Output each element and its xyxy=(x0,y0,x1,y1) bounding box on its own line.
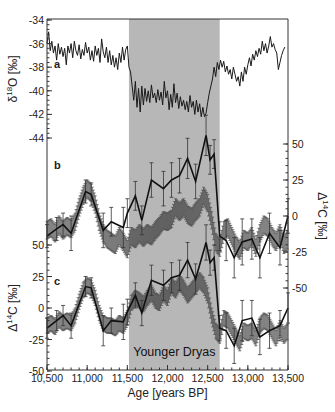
panel-label-b: b xyxy=(54,159,61,171)
chart-figure: Age [years BP] Younger Dryas 10,50011,00… xyxy=(0,0,335,412)
y-tick-label-b: 25 xyxy=(292,174,304,186)
y-tick-label-a: -44 xyxy=(29,132,44,144)
y-tick-label-c: -25 xyxy=(29,334,44,346)
x-tick-label: 11,000 xyxy=(71,372,102,384)
panel-label-c: c xyxy=(54,275,60,287)
x-axis-title: Age [years BP] xyxy=(127,386,207,400)
x-tick-label: 13,500 xyxy=(272,372,304,384)
y-tick-label-c: 25 xyxy=(32,271,44,283)
x-tick-label: 12,500 xyxy=(192,372,224,384)
y-tick-label-b: 50 xyxy=(292,138,304,150)
x-tick-label: 12,000 xyxy=(151,372,183,384)
y-tick-label-a: -36 xyxy=(29,38,44,50)
y-tick-label-b: -50 xyxy=(292,282,307,294)
y-tick-label-c: 0 xyxy=(38,302,44,314)
y-tick-label-a: -42 xyxy=(29,108,44,120)
y-tick-label-a: -38 xyxy=(29,61,44,73)
y-tick-label-c: -50 xyxy=(29,365,44,377)
panel-label-a: a xyxy=(54,58,61,70)
younger-dryas-label: Younger Dryas xyxy=(133,345,215,359)
y-tick-label-c: 50 xyxy=(32,239,44,251)
x-tick-label: 11,500 xyxy=(112,372,143,384)
y-axis-title-c: Δ14C [‰] xyxy=(5,284,20,332)
y-axis-title-a: δ18O [‰] xyxy=(5,56,20,103)
y-tick-label-b: -25 xyxy=(292,246,307,258)
x-tick-label: 13,000 xyxy=(232,372,264,384)
y-axis-title-b: Δ14C [‰] xyxy=(315,192,330,240)
y-tick-label-a: -34 xyxy=(29,14,44,26)
y-tick-label-a: -40 xyxy=(29,85,44,97)
y-tick-label-b: 0 xyxy=(292,210,298,222)
